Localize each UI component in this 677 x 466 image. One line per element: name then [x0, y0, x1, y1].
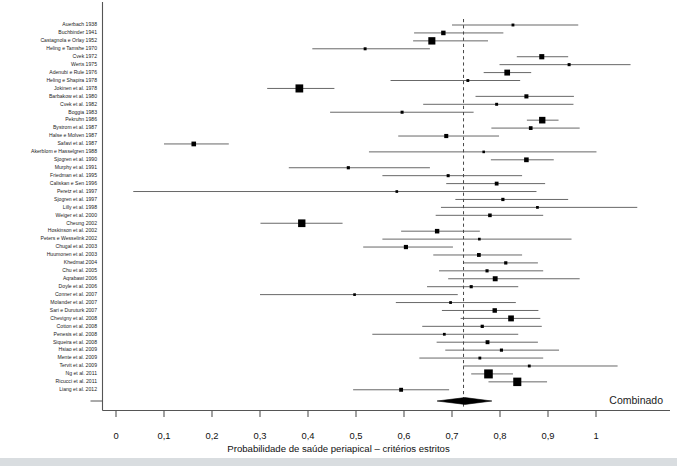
forest-row — [260, 293, 458, 296]
forest-row — [414, 31, 503, 36]
forest-row — [312, 47, 430, 50]
page-edge-band — [0, 458, 677, 466]
forest-row — [436, 213, 544, 217]
forest-row — [422, 325, 542, 328]
forest-row — [445, 349, 559, 352]
forest-row — [398, 134, 499, 138]
effect-estimate-marker — [470, 285, 473, 288]
effect-estimate-marker — [447, 174, 450, 177]
forest-row — [396, 301, 516, 304]
summary-diamond — [437, 398, 492, 405]
effect-estimate-marker — [466, 79, 469, 82]
forest-row — [391, 79, 521, 82]
forest-row — [441, 206, 637, 209]
effect-estimate-marker — [539, 54, 544, 59]
effect-estimate-marker — [504, 261, 507, 264]
effect-estimate-marker — [495, 182, 499, 186]
forest-row — [491, 126, 579, 130]
forest-row — [330, 111, 474, 114]
effect-estimate-marker — [347, 166, 350, 169]
effect-estimate-marker — [444, 134, 448, 138]
forest-row — [427, 285, 518, 288]
x-tick-label: 0,5 — [341, 430, 371, 441]
forest-row — [382, 174, 522, 177]
effect-estimate-marker — [191, 142, 196, 147]
forest-row — [517, 54, 568, 59]
x-tick-label: 0,4 — [293, 430, 323, 441]
effect-estimate-marker — [513, 378, 521, 386]
forest-row — [372, 333, 518, 336]
effect-estimate-marker — [484, 369, 493, 378]
effect-estimate-marker — [443, 333, 446, 336]
forest-row — [260, 219, 342, 227]
effect-estimate-marker — [528, 365, 531, 368]
forest-row — [133, 190, 536, 193]
effect-estimate-marker — [441, 31, 445, 36]
forest-row — [491, 157, 554, 162]
effect-estimate-marker — [399, 388, 403, 392]
forest-row — [476, 94, 574, 98]
effect-estimate-marker — [493, 276, 498, 281]
effect-estimate-marker — [449, 301, 452, 304]
x-tick-label: 0,6 — [389, 430, 419, 441]
forest-row — [527, 117, 559, 124]
effect-estimate-marker — [524, 94, 528, 98]
effect-estimate-marker — [478, 238, 481, 241]
forest-row — [363, 245, 453, 249]
forest-row — [267, 84, 334, 92]
effect-estimate-marker — [477, 253, 481, 257]
forest-row — [448, 276, 580, 281]
x-axis-title: Probabilidade de saúde periapical – crit… — [0, 443, 677, 454]
forest-row — [439, 269, 543, 272]
forest-row — [442, 308, 538, 313]
forest-row — [455, 198, 568, 201]
forest-row — [382, 238, 571, 241]
x-tick-label: 0,1 — [149, 430, 179, 441]
effect-estimate-marker — [298, 219, 305, 227]
x-tick-label: 0,8 — [485, 430, 515, 441]
effect-estimate-marker — [435, 229, 439, 234]
forest-row — [452, 24, 578, 27]
effect-estimate-marker — [478, 357, 481, 360]
forest-row — [500, 63, 631, 66]
effect-estimate-marker — [512, 24, 515, 27]
effect-estimate-marker — [353, 293, 356, 296]
x-tick-label: 0,3 — [245, 430, 275, 441]
forest-row — [484, 70, 532, 76]
forest-row — [401, 229, 480, 234]
effect-estimate-marker — [504, 70, 510, 76]
effect-estimate-marker — [501, 198, 504, 201]
plot-canvas — [0, 0, 677, 466]
forest-row — [463, 365, 618, 368]
x-tick-label: 0,9 — [533, 430, 563, 441]
forest-row — [423, 103, 573, 106]
effect-estimate-marker — [481, 325, 484, 328]
forest-row — [464, 261, 538, 264]
effect-estimate-marker — [508, 315, 514, 321]
forest-row — [413, 37, 488, 44]
effect-estimate-marker — [488, 213, 492, 217]
forest-row — [353, 388, 449, 392]
effect-estimate-marker — [428, 37, 435, 44]
effect-estimate-marker — [539, 117, 545, 124]
forest-row — [488, 378, 547, 386]
forest-row — [433, 253, 522, 257]
effect-estimate-marker — [482, 151, 485, 154]
effect-estimate-marker — [404, 245, 408, 249]
effect-estimate-marker — [401, 111, 404, 114]
forest-row — [369, 151, 597, 154]
forest-row — [437, 340, 538, 344]
forest-plot-figure: Auerbach 1938Buchbinder 1941Castagnola e… — [0, 0, 677, 466]
effect-estimate-marker — [486, 340, 490, 344]
forest-row — [419, 357, 543, 360]
effect-estimate-marker — [568, 63, 571, 66]
effect-estimate-marker — [493, 308, 497, 313]
effect-estimate-marker — [529, 126, 533, 130]
effect-estimate-marker — [536, 206, 539, 209]
effect-estimate-marker — [485, 269, 488, 272]
forest-row — [446, 182, 545, 186]
forest-row — [164, 142, 229, 147]
forest-row — [289, 166, 430, 169]
forest-row — [461, 315, 541, 321]
forest-row — [471, 369, 513, 378]
